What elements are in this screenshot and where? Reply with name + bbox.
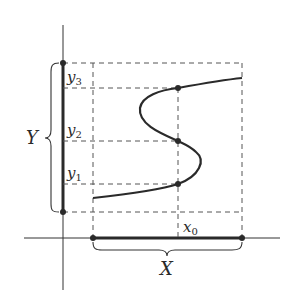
- y-interval-bottom-point: [60, 209, 66, 215]
- x-brace: [93, 242, 242, 256]
- x-interval-left-point: [90, 235, 96, 241]
- label-X: X: [158, 258, 174, 279]
- point-y1: [175, 181, 181, 187]
- label-Y: Y: [26, 127, 40, 148]
- y-brace: [45, 63, 59, 212]
- s-curve: [93, 78, 242, 198]
- label-y1: y1: [66, 164, 82, 183]
- label-y2: y2: [66, 121, 82, 140]
- point-y3: [175, 85, 181, 91]
- point-y2: [175, 138, 181, 144]
- label-x0: x0: [183, 218, 198, 237]
- diagram-canvas: y3 y2 y1 x0 Y X: [0, 0, 287, 305]
- s-curve-diagram: y3 y2 y1 x0 Y X: [0, 0, 287, 305]
- y-interval-top-point: [60, 60, 66, 66]
- label-y3: y3: [66, 68, 82, 87]
- x-interval-right-point: [239, 235, 245, 241]
